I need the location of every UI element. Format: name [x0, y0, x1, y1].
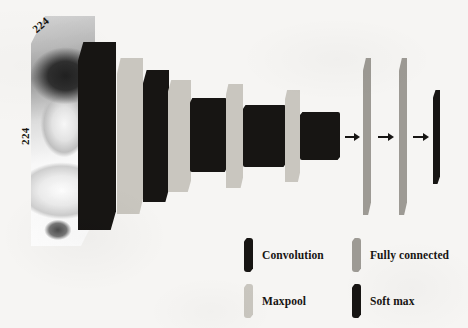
legend-swatch-maxpool [244, 284, 253, 318]
layer-conv4 [243, 105, 286, 167]
layer-pool4 [285, 90, 300, 182]
legend-item-maxpool: Maxpool [244, 284, 306, 318]
legend-swatch-convolution [244, 238, 253, 272]
layer-conv1 [78, 42, 116, 230]
layer-fc2 [399, 58, 407, 215]
layer-fc1 [363, 58, 371, 215]
legend: Convolution Maxpool Fully connected Soft… [240, 238, 460, 322]
layer-pool1 [117, 58, 143, 214]
layer-conv3 [190, 98, 227, 172]
legend-swatch-soft-max [352, 284, 361, 318]
legend-item-fully-connected: Fully connected [352, 238, 449, 272]
layer-conv2 [143, 70, 169, 202]
layer-pool2 [168, 80, 191, 192]
legend-swatch-fully-connected [352, 238, 361, 272]
arrow-fc2-soft [413, 132, 429, 142]
layer-pool3 [226, 84, 243, 188]
legend-label-fully-connected: Fully connected [370, 249, 449, 261]
legend-label-convolution: Convolution [262, 249, 324, 261]
diagram-canvas: 224 224 Convolution Maxpool Fully connec… [0, 0, 468, 328]
legend-item-soft-max: Soft max [352, 284, 415, 318]
layer-softmax [433, 90, 440, 184]
input-height-224: 224 [19, 127, 31, 145]
arrow-conv5-fc1 [345, 132, 360, 142]
legend-item-convolution: Convolution [244, 238, 324, 272]
layer-conv5 [300, 112, 340, 160]
legend-label-soft-max: Soft max [370, 295, 415, 307]
legend-label-maxpool: Maxpool [262, 295, 306, 307]
arrow-fc1-fc2 [378, 132, 394, 142]
